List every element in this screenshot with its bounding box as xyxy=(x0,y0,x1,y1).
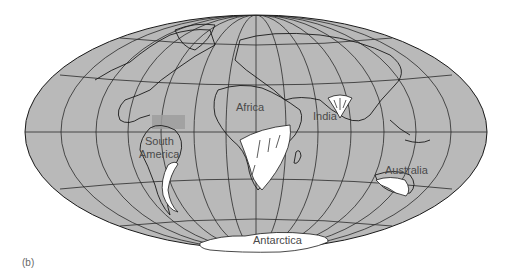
label-australia: Australia xyxy=(385,164,429,176)
label-south-america-2: America xyxy=(139,148,180,160)
world-map: Africa India South America Australia Ant… xyxy=(0,0,510,277)
label-india: India xyxy=(313,110,338,122)
panel-label: (b) xyxy=(22,257,34,268)
label-antarctica: Antarctica xyxy=(253,234,303,246)
label-south-america-1: South xyxy=(145,135,174,147)
label-africa: Africa xyxy=(236,101,265,113)
